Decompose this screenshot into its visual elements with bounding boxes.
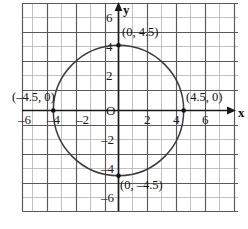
coordinate-plane-figure: y x O 6 4 2 –2 –4 –6 –6 –4 –2 2 4 6 (0, … bbox=[0, 0, 248, 229]
x-tick-minus-4: –4 bbox=[47, 113, 60, 126]
y-tick-minus-2: –2 bbox=[101, 133, 114, 146]
annotation-point-left: (–4.5, 0) bbox=[12, 91, 55, 104]
origin-label: O bbox=[106, 104, 115, 117]
annotation-point-top: (0, 4.5) bbox=[122, 26, 158, 39]
y-tick-minus-6: –6 bbox=[101, 191, 114, 204]
x-tick-minus-6: –6 bbox=[18, 113, 31, 126]
x-axis-label: x bbox=[238, 106, 245, 119]
point-right bbox=[181, 108, 186, 113]
y-tick-6: 6 bbox=[106, 11, 113, 24]
y-axis-label: y bbox=[123, 3, 130, 16]
x-tick-minus-2: –2 bbox=[76, 113, 89, 126]
y-tick-2: 2 bbox=[106, 69, 113, 82]
annotation-point-bottom: (0, –4.5) bbox=[120, 179, 163, 192]
x-tick-6: 6 bbox=[202, 113, 209, 126]
annotation-point-right: (4.5, 0) bbox=[186, 91, 222, 104]
y-tick-minus-4: –4 bbox=[101, 162, 114, 175]
x-tick-4: 4 bbox=[173, 113, 180, 126]
x-tick-2: 2 bbox=[144, 113, 151, 126]
point-top bbox=[116, 43, 121, 48]
y-tick-4: 4 bbox=[106, 40, 113, 53]
